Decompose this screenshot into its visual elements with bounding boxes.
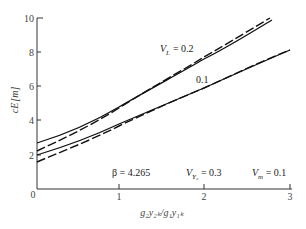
x-ticks xyxy=(119,184,290,189)
y-tick-labels: 10 8 6 4 2 0 xyxy=(24,13,36,200)
y-tick-4: 4 xyxy=(29,115,34,126)
annotation-0.1: 0.1 xyxy=(196,74,209,85)
line-chart: 10 8 6 4 2 0 1 2 3 cE[m] g₂y₂ₖ/g₁y₁ₖ VIₓ… xyxy=(0,0,306,229)
y-tick-6: 6 xyxy=(29,81,34,92)
x-tick-3: 3 xyxy=(288,191,293,202)
y-tick-0: 0 xyxy=(31,189,36,200)
annotation-beta: β = 4.265 xyxy=(112,167,150,178)
y-tick-10: 10 xyxy=(24,13,34,24)
y-axis-label: cE[m] xyxy=(9,87,20,114)
y-tick-2: 2 xyxy=(29,150,34,161)
x-tick-1: 1 xyxy=(117,191,122,202)
y-ticks xyxy=(37,18,43,155)
annotation-vm: Vm = 0.1 xyxy=(252,167,286,181)
x-axis-label: g₂y₂ₖ/g₁y₁ₖ xyxy=(140,207,185,218)
x-tick-2: 2 xyxy=(202,191,207,202)
annotation-vix-0.2: VIₓ = 0.2 xyxy=(160,43,194,57)
x-tick-labels: 1 2 3 xyxy=(117,191,293,202)
y-tick-8: 8 xyxy=(29,47,34,58)
series-vix-0.1-dashed xyxy=(37,50,290,162)
annotation-vy2: VY₂ = 0.3 xyxy=(186,167,222,181)
